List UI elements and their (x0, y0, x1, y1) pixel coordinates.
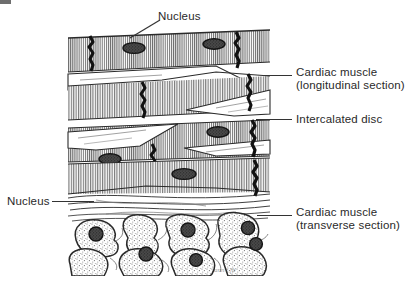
nucleus-longitudinal-2 (203, 39, 225, 49)
label-nucleus-left: Nucleus (7, 195, 50, 208)
nucleus-transverse-5 (190, 254, 203, 267)
leader-intercalated-disc (256, 119, 292, 120)
label-cardiac-muscle-transverse: Cardiac muscle (transverse section) (296, 206, 400, 231)
label-cardiac-muscle-longitudinal-line1: Cardiac muscle (296, 66, 377, 78)
leader-cardiac-muscle-transverse (257, 215, 292, 216)
artist-signature: ann / jb (214, 266, 236, 274)
nucleus-transverse-1 (89, 227, 103, 241)
leader-cardiac-muscle-longitudinal (262, 75, 292, 76)
label-cardiac-muscle-longitudinal-line2: (longitudinal section) (296, 79, 405, 92)
label-cardiac-muscle-transverse-line1: Cardiac muscle (296, 206, 377, 218)
transverse-section-group (69, 212, 268, 276)
nucleus-transverse-6 (250, 238, 263, 251)
nucleus-longitudinal-1 (123, 43, 145, 54)
label-intercalated-disc: Intercalated disc (296, 113, 382, 126)
longitudinal-section-group (66, 28, 272, 200)
leader-nucleus-top (128, 18, 162, 40)
label-cardiac-muscle-longitudinal: Cardiac muscle (longitudinal section) (296, 66, 405, 91)
scan-edge-artifact (0, 0, 11, 4)
label-nucleus-top-line1: Nucleus (158, 10, 201, 22)
nucleus-longitudinal-3 (207, 127, 229, 137)
cardiac-muscle-illustration: ann / jb (66, 28, 272, 276)
label-cardiac-muscle-transverse-line2: (transverse section) (296, 219, 400, 232)
nucleus-transverse-3 (241, 221, 254, 234)
nucleus-longitudinal-5 (172, 169, 196, 180)
figure-page: ann / jb Nucleus Cardiac muscle (longitu… (0, 0, 409, 285)
label-nucleus-top: Nucleus (158, 10, 201, 23)
svg-text:ann / jb: ann / jb (214, 266, 236, 274)
nucleus-transverse-4 (139, 247, 153, 261)
label-intercalated-disc-line1: Intercalated disc (296, 113, 382, 125)
nucleus-transverse-2 (181, 223, 195, 237)
label-nucleus-left-line1: Nucleus (7, 195, 50, 207)
leader-nucleus-left (52, 201, 94, 202)
